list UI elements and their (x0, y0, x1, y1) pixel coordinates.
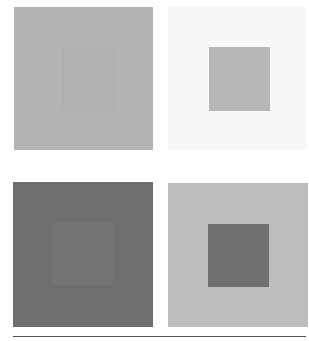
bottom-right-inner-square (208, 224, 269, 287)
bottom-rule (13, 336, 306, 337)
top-left-inner-square (62, 47, 116, 111)
top-right-inner-square (209, 47, 270, 111)
bottom-left-inner-square (52, 223, 113, 285)
